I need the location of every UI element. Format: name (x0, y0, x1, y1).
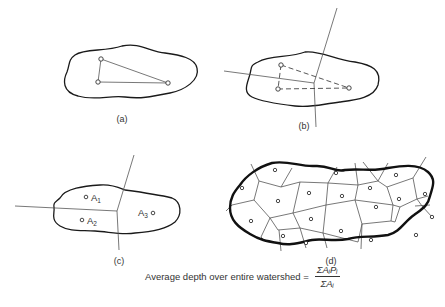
dashed-triangle-edge (281, 65, 349, 88)
rain-gauge-station (99, 57, 103, 61)
area-label-a1: A1 (91, 192, 101, 204)
average-depth-formula: Average depth over entire watershed = ΣA… (145, 264, 340, 289)
dashed-triangle-edge (278, 65, 281, 89)
rain-gauge-station (276, 87, 280, 91)
formula-text: Average depth over entire watershed = (145, 271, 309, 282)
bisector-line (314, 8, 337, 83)
formula-fraction: ΣAᵢPᵢ ΣAᵢ (315, 264, 340, 289)
panel-c: A1 A2 A3 (c) (15, 155, 180, 266)
triangle-edge (98, 59, 101, 82)
watershed-boundary-b (246, 52, 378, 107)
watershed-boundary-c (54, 185, 180, 234)
thiessen-diagram: (a) (b) A1 A2 A3 (c) (0, 0, 445, 307)
triangle-edge (101, 59, 168, 83)
bisector-line (224, 71, 314, 83)
watershed-boundary-d (230, 162, 433, 244)
panel-label-b: (b) (299, 121, 310, 131)
rain-gauge-station (84, 195, 88, 199)
rain-gauge-station (166, 81, 170, 85)
panel-label-a: (a) (117, 114, 128, 124)
formula-numerator: ΣAᵢPᵢ (315, 264, 340, 277)
panel-a: (a) (64, 45, 197, 124)
area-label-a2: A2 (87, 215, 97, 227)
area-label-a3: A3 (138, 207, 148, 219)
rain-gauge-station (279, 63, 283, 67)
rain-gauge-station (96, 80, 100, 84)
thiessen-boundary (15, 206, 117, 211)
panel-label-c: (c) (114, 256, 125, 266)
thiessen-boundary (117, 211, 119, 250)
panel-d: (d) (226, 157, 434, 266)
dashed-triangle-edge (278, 88, 349, 89)
formula-denominator: ΣAᵢ (321, 277, 334, 289)
rain-gauge-station (347, 86, 351, 90)
triangle-edge (98, 82, 168, 83)
panel-b: (b) (224, 8, 379, 131)
rain-gauge-station (151, 211, 155, 215)
stations-d (240, 168, 433, 244)
watershed-boundary-a (64, 45, 197, 98)
thiessen-boundary (117, 155, 134, 211)
rain-gauge-station (80, 218, 84, 222)
